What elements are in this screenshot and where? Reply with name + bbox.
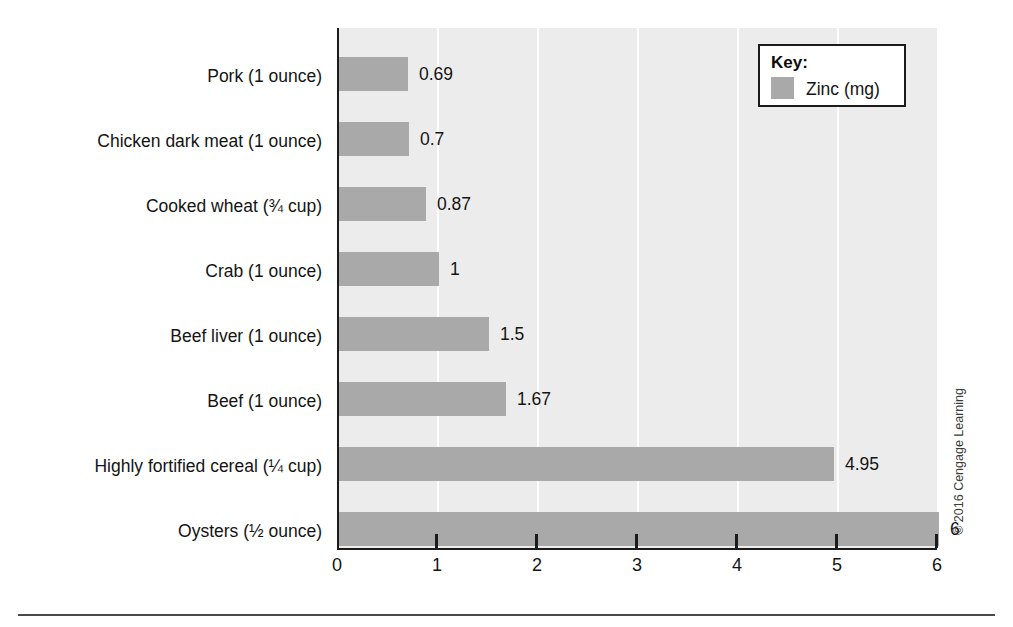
category-label: Crab (1 ounce): [205, 263, 322, 281]
bar-value-label: 0.7: [420, 131, 444, 149]
x-tick-label: 2: [532, 556, 542, 574]
x-tick-mark: [735, 534, 738, 548]
footer-divider: [18, 614, 995, 616]
bar: [339, 512, 939, 546]
bar: [339, 252, 439, 286]
category-label: Beef liver (1 ounce): [170, 328, 322, 346]
x-tick-label: 3: [632, 556, 642, 574]
category-label: Highly fortified cereal (¼ cup): [94, 458, 322, 476]
category-label: Beef (1 ounce): [207, 393, 322, 411]
legend-title: Key:: [771, 54, 808, 71]
bar-value-label: 0.69: [419, 66, 453, 84]
category-label: Cooked wheat (¾ cup): [146, 198, 322, 216]
x-tick-mark: [935, 534, 938, 548]
gridline: [937, 28, 939, 548]
x-tick-mark: [535, 534, 538, 548]
x-tick-label: 4: [732, 556, 742, 574]
x-tick-mark: [835, 534, 838, 548]
copyright-notice: © 2016 Cengage Learning: [953, 388, 966, 535]
bar: [339, 187, 426, 221]
bar-value-label: 1.67: [517, 391, 551, 409]
bar-value-label: 1.5: [500, 326, 524, 344]
x-tick-label: 0: [332, 556, 342, 574]
category-label: Chicken dark meat (1 ounce): [97, 133, 322, 151]
x-tick-mark: [635, 534, 638, 548]
category-label: Pork (1 ounce): [207, 68, 322, 86]
bar: [339, 122, 409, 156]
category-label: Oysters (½ ounce): [178, 523, 322, 541]
bar: [339, 57, 408, 91]
legend-swatch-icon: [771, 77, 794, 99]
x-tick-mark: [435, 534, 438, 548]
bar-value-label: 4.95: [845, 456, 879, 474]
x-tick-label: 6: [932, 556, 942, 574]
bar: [339, 382, 506, 416]
x-tick-label: 1: [432, 556, 442, 574]
bar-value-label: 0.87: [437, 196, 471, 214]
bar: [339, 447, 834, 481]
bar: [339, 317, 489, 351]
legend-box: Key: Zinc (mg): [758, 44, 906, 107]
x-tick-label: 5: [832, 556, 842, 574]
category-axis-labels: Pork (1 ounce) Chicken dark meat (1 ounc…: [0, 28, 330, 548]
zinc-bar-chart-figure: Pork (1 ounce) Chicken dark meat (1 ounc…: [0, 0, 1013, 627]
legend-entry-label: Zinc (mg): [806, 81, 880, 99]
x-axis: 0 1 2 3 4 5 6: [337, 548, 937, 588]
bar-value-label: 1: [450, 261, 460, 279]
